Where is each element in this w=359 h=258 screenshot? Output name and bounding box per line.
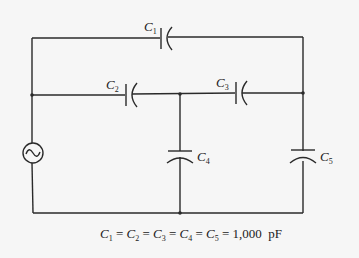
junction-dot [178, 211, 182, 215]
junction-dot [301, 91, 305, 95]
label-c2: C2 [106, 78, 119, 94]
wire-left-lower [32, 163, 33, 213]
c2-plate-curved [132, 83, 137, 107]
c1-plate-curved [167, 27, 172, 50]
capacitance-caption: C1 = C2 = C3 = C4 = C5 = 1,000 pF [100, 226, 300, 243]
junction-dot [30, 93, 34, 97]
label-c4: C4 [197, 150, 210, 166]
circuit-diagram [0, 0, 359, 258]
label-c3: C3 [216, 76, 229, 92]
wire-mid-2 [132, 93, 235, 94]
junction-dot [178, 92, 182, 96]
label-c5: C5 [320, 150, 333, 166]
label-c1: C1 [144, 20, 157, 36]
ac-source-sine [26, 150, 40, 157]
